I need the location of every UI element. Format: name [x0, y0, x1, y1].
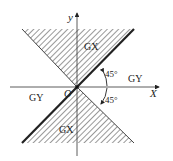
right-gy-label: GY [128, 73, 142, 84]
x-axis-label: X [149, 87, 158, 99]
origin-point [75, 85, 79, 89]
upper-gx-label: GX [84, 41, 99, 52]
lower-gx-label: GX [59, 124, 74, 135]
origin-label: O [64, 88, 71, 99]
upper-angle-label: 45° [105, 69, 118, 79]
lower-angle-label: 45° [105, 95, 118, 105]
y-axis-label: y [67, 11, 73, 23]
left-gy-label: GY [29, 92, 43, 103]
gx-gy-region-diagram: y X O GX GX GY GY 45° 45° [0, 0, 173, 161]
